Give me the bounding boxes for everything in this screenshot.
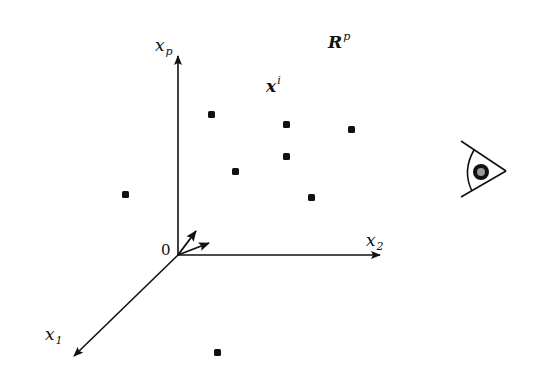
axis-label-xp: xp bbox=[155, 37, 173, 54]
space-label-main: R bbox=[328, 32, 342, 52]
data-point bbox=[283, 121, 290, 128]
diagram-canvas bbox=[0, 0, 541, 390]
data-point bbox=[122, 191, 129, 198]
data-point bbox=[308, 194, 315, 201]
eye-icon bbox=[461, 141, 506, 197]
axis-label-x1: x1 bbox=[45, 326, 63, 343]
data-point bbox=[232, 168, 239, 175]
data-point bbox=[283, 153, 290, 160]
axis-label-x2-sub: 2 bbox=[377, 240, 384, 253]
space-label: Rp bbox=[328, 34, 350, 51]
data-points bbox=[122, 111, 355, 356]
axis-label-x2: x2 bbox=[366, 232, 384, 249]
point-label: xi bbox=[266, 78, 281, 95]
axis-x1 bbox=[74, 255, 178, 356]
axis-label-x1-main: x bbox=[45, 324, 55, 344]
origin-label: 0 bbox=[161, 243, 171, 258]
data-point bbox=[348, 126, 355, 133]
axis-label-xp-sub: p bbox=[166, 45, 173, 58]
axis-label-x1-sub: 1 bbox=[56, 334, 63, 347]
point-label-main: x bbox=[266, 76, 276, 96]
space-label-sup: p bbox=[343, 30, 350, 43]
axis-label-xp-main: x bbox=[155, 35, 165, 55]
axis-label-x2-main: x bbox=[366, 230, 376, 250]
point-label-sup: i bbox=[277, 74, 281, 87]
data-point bbox=[208, 111, 215, 118]
data-point bbox=[214, 349, 221, 356]
